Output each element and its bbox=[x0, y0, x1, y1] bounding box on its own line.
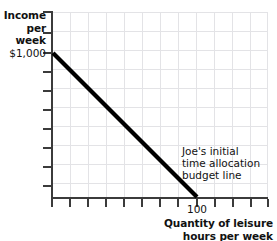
x-axis-tick bbox=[159, 199, 161, 207]
y-axis-tick bbox=[43, 185, 52, 187]
x-axis-tick bbox=[267, 199, 269, 207]
x-axis-tick-label-100: 100 bbox=[175, 203, 219, 215]
budget-line-chart: Income per week $1,000 100 Quantity of l… bbox=[0, 0, 277, 241]
y-axis-tick bbox=[43, 166, 52, 168]
y-axis-tick bbox=[43, 71, 52, 73]
x-axis-title-line-2: hours per week bbox=[183, 230, 273, 241]
x-axis-tick bbox=[69, 199, 71, 207]
x-axis-title-line-1: Quantity of leisure bbox=[164, 217, 273, 229]
x-axis-tick bbox=[105, 199, 107, 207]
x-axis-tick bbox=[141, 199, 143, 207]
y-axis-tick bbox=[43, 109, 52, 111]
y-axis-title-line-2: per week bbox=[15, 22, 46, 47]
y-axis-tick bbox=[43, 128, 52, 130]
y-axis-title: Income per week bbox=[0, 9, 46, 47]
annotation-line-1: Joe's initial bbox=[182, 145, 239, 157]
y-axis-tick-label-1000: $1,000 bbox=[0, 47, 46, 59]
x-axis-tick bbox=[51, 199, 53, 207]
annotation-line-3: budget line bbox=[182, 169, 242, 181]
y-axis bbox=[51, 11, 53, 199]
x-axis-tick bbox=[123, 199, 125, 207]
x-axis-tick bbox=[232, 199, 234, 207]
x-axis-tick bbox=[250, 199, 252, 207]
y-axis-title-line-1: Income bbox=[4, 9, 46, 21]
y-axis-tick bbox=[43, 90, 52, 92]
y-axis-tick bbox=[43, 147, 52, 149]
x-axis-tick bbox=[87, 199, 89, 207]
annotation-line-2: time allocation bbox=[182, 157, 260, 169]
x-axis-title: Quantity of leisure hours per week bbox=[83, 217, 273, 241]
budget-line-annotation: Joe's initial time allocation budget lin… bbox=[182, 145, 260, 182]
